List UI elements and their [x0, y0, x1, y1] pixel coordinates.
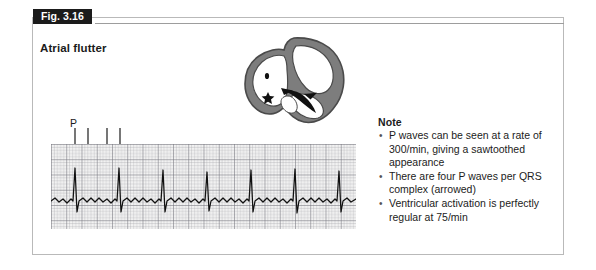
figure-header-rule: [95, 23, 564, 24]
figure-number-tab: Fig. 3.16: [33, 9, 92, 24]
note-block: Note • P waves can be seen at a rate of …: [378, 116, 556, 224]
figure-title: Atrial flutter: [40, 42, 107, 54]
note-list: • P waves can be seen at a rate of 300/m…: [378, 129, 556, 224]
note-list-item: • P waves can be seen at a rate of 300/m…: [378, 129, 556, 170]
bullet-icon: •: [379, 170, 383, 184]
ecg-rhythm-strip: [51, 144, 356, 229]
figure-root: Fig. 3.16 Atrial flutter: [0, 0, 596, 270]
note-list-item: • Ventricular activation is perfectly re…: [378, 197, 556, 224]
note-item-text: There are four P waves per QRS complex (…: [389, 170, 542, 196]
bullet-icon: •: [379, 197, 383, 211]
heart-diagram: [232, 34, 360, 126]
note-heading: Note: [378, 116, 556, 128]
bullet-icon: •: [379, 129, 383, 143]
note-item-text: Ventricular activation is perfectly regu…: [389, 197, 539, 223]
note-list-item: • There are four P waves per QRS complex…: [378, 170, 556, 197]
ecg-grid: [51, 144, 356, 229]
note-item-text: P waves can be seen at a rate of 300/min…: [389, 129, 542, 168]
